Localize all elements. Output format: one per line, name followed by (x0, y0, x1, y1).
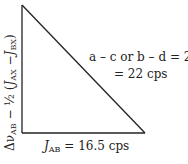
j-ab-subscript: AB (49, 145, 61, 154)
minus-sign: − (3, 55, 17, 69)
j-ax: J (3, 81, 17, 86)
horizontal-leg-label: JAB = 16.5 cps (44, 140, 129, 156)
close-paren: ) (3, 34, 17, 39)
j-ax-subscript: AX (9, 69, 18, 80)
hypotenuse-expression: a – c or b – d = 2 (89, 50, 188, 64)
minus-half: − ½ ( (3, 86, 17, 124)
j-bx-subscript: BX (9, 39, 18, 51)
j-bx: J (3, 51, 17, 56)
delta-nu: Δν (3, 135, 17, 151)
delta-nu-subscript: AB (9, 123, 18, 135)
hypotenuse-label-line1: a – c or b – d = 2D+ (89, 51, 188, 67)
j-ab-value: = 16.5 cps (60, 139, 129, 153)
vertical-leg-label: ΔνAB − ½ (JAX −JBX) (2, 34, 22, 151)
hypotenuse-label-line2: = 22 cps (114, 68, 168, 81)
